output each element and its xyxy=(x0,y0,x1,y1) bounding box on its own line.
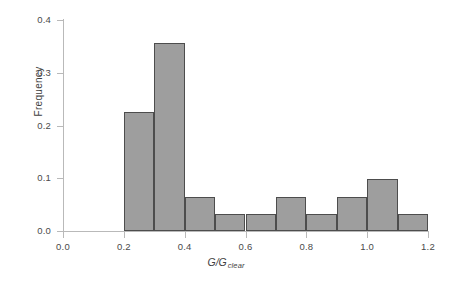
x-axis-title-subscript: clear xyxy=(227,261,245,270)
x-tick-mark xyxy=(246,232,247,238)
x-tick-mark xyxy=(367,232,368,238)
x-axis-title: G/Gclear xyxy=(0,256,452,270)
histogram-bar xyxy=(337,197,367,231)
x-axis-title-main: G/G xyxy=(207,256,226,268)
x-tick-label: 0.6 xyxy=(226,241,266,252)
histogram-bar xyxy=(154,43,184,231)
x-tick-mark xyxy=(63,232,64,238)
x-tick-mark xyxy=(185,232,186,238)
y-tick-label: 0.4 xyxy=(37,14,51,25)
x-tick-mark xyxy=(306,232,307,238)
y-tick-label: 0.0 xyxy=(37,225,51,236)
x-tick-mark xyxy=(428,232,429,238)
histogram-bar xyxy=(215,214,245,231)
y-tick-label: 0.2 xyxy=(37,120,51,131)
y-tick-label: 0.3 xyxy=(37,67,51,78)
x-tick-label: 1.0 xyxy=(347,241,387,252)
histogram-bar xyxy=(276,197,306,231)
histogram-bar xyxy=(306,214,336,231)
x-tick-label: 0.2 xyxy=(104,241,144,252)
x-tick-label: 0.0 xyxy=(43,241,83,252)
histogram-bar xyxy=(185,197,215,231)
y-tick-label: 0.1 xyxy=(37,172,51,183)
x-tick-label: 0.4 xyxy=(165,241,205,252)
y-axis-title: Frequency xyxy=(33,32,44,152)
histogram-bar xyxy=(398,214,428,231)
plot-area xyxy=(63,20,428,231)
x-tick-mark xyxy=(124,232,125,238)
x-tick-label: 1.2 xyxy=(408,241,448,252)
histogram-figure: Frequency G/Gclear 0.00.10.20.30.4 0.00.… xyxy=(0,0,452,283)
x-tick-label: 0.8 xyxy=(286,241,326,252)
histogram-bar xyxy=(367,179,397,231)
histogram-bar xyxy=(124,112,154,231)
histogram-bar xyxy=(246,214,276,231)
